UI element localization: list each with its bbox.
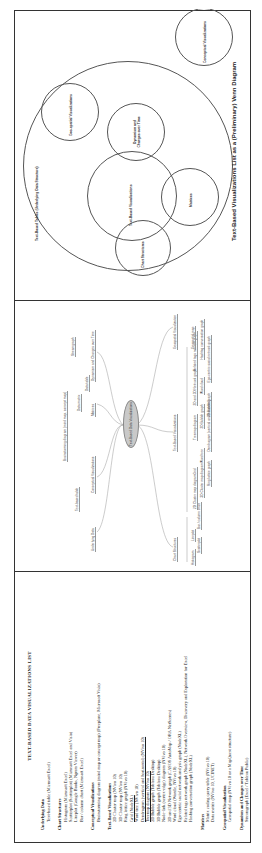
venn-label: Geo-spatial Visualizations bbox=[69, 94, 73, 136]
mm-leaf: Hashtag conversation graph bbox=[200, 319, 205, 361]
mm-leaf: 2D and 3D Network graph bbox=[193, 368, 198, 407]
mm-branch-matrices: Matrices bbox=[91, 403, 96, 417]
list-item: Brainstorming diagram (mind map or conce… bbox=[96, 582, 101, 830]
mm-branch-conceptual: Conceptual Visualizations bbox=[91, 456, 96, 494]
mm-leaf: Ego-centric social network graph bbox=[207, 335, 212, 383]
mm-branch-underlying-data: Underlying Data bbox=[91, 527, 96, 552]
mm-leaf: Streamgraph bbox=[71, 337, 76, 357]
list-item: Bar / column chart (Microsoft Excel) bbox=[79, 582, 84, 830]
root-label: Text-Based Data Visualizations bbox=[129, 402, 133, 446]
venn-label: Conceptual Visualizations bbox=[203, 21, 207, 63]
mm-leaf: Lineplot bbox=[191, 529, 196, 542]
mind-map-root: Text-Based Data Visualizations bbox=[123, 400, 139, 448]
mm-leaf: Grid bbox=[193, 467, 198, 475]
mm-leaf: Data matrix bbox=[77, 394, 82, 412]
mm-leaf: 3D Bubble graph bbox=[207, 392, 212, 418]
venn-label: Chart Structures bbox=[141, 241, 145, 268]
mm-leaf: Word tree bbox=[200, 448, 205, 464]
venn-label: Text-Based Tables (Underlying Data Struc… bbox=[35, 166, 39, 241]
text-list-panel: TEXT-BASED DATA VISUALIZATIONS LIST Unde… bbox=[15, 572, 250, 842]
list-body: Underlying DataText-based table (Microso… bbox=[40, 582, 249, 830]
mm-leaf: Histogram bbox=[191, 549, 196, 566]
mm-leaf: Ring lattice graph bbox=[207, 460, 212, 487]
list-item: Streamgraph (Excel / Tableau Public) bbox=[244, 582, 249, 830]
document-page: TEXT-BASED DATA VISUALIZATIONS LIST Unde… bbox=[0, 0, 262, 853]
mm-branch-text-based: Text-Based Visualizations bbox=[173, 414, 178, 452]
mm-leaf: 2D Cluster map diagram bbox=[193, 473, 198, 510]
mm-leaf: 2D Bubble graph bbox=[200, 404, 205, 430]
mm-branch-dynamism: Dynamism and Changes over Time bbox=[91, 330, 96, 382]
mm-leaf: Geospatial map bbox=[191, 326, 196, 350]
venn-label: Matrices bbox=[189, 193, 193, 207]
page-frame: TEXT-BASED DATA VISUALIZATIONS LIST Unde… bbox=[14, 10, 251, 843]
venn-caption: Text-Based Visualizations List as a (Pre… bbox=[231, 62, 237, 241]
mm-leaf: Treemap diagram bbox=[193, 414, 198, 441]
mm-branch-chart-structures: Chart Structures bbox=[173, 537, 178, 562]
mm-leaf: Text-based table bbox=[75, 487, 80, 512]
mm-leaf: Data table bbox=[85, 375, 90, 392]
list-item: Text-based table (Microsoft Excel) bbox=[46, 582, 51, 830]
venn-label: Dynamism and Changes over Time bbox=[133, 113, 141, 151]
mm-leaf: Scatterplot bbox=[197, 537, 202, 554]
list-title: TEXT-BASED DATA VISUALIZATIONS LIST bbox=[27, 582, 32, 830]
mm-leaf: Brainstorming diagram (mind map, concept… bbox=[63, 391, 68, 462]
mm-leaf: Word cloud bbox=[200, 377, 205, 395]
list-item: Geospatial map (NVivo 10 or a MapQuest s… bbox=[227, 582, 232, 830]
mm-branch-geospatial: Geospatial Visualization bbox=[173, 314, 178, 350]
mm-leaf: 3D Cluster map diagram bbox=[200, 462, 205, 499]
list-item: Hashtag conversation graph (NodeXL) bbox=[188, 582, 193, 830]
venn-diagram-panel: Text-Based Tables (Underlying Data Struc… bbox=[15, 9, 250, 301]
list-item: Data matrix (NVivo 10, UCINET) bbox=[210, 582, 215, 830]
mind-map-panel: Text-Based Data Visualizations Underlyin… bbox=[15, 301, 250, 572]
venn-label: Text-Based Visualizations bbox=[129, 184, 133, 226]
